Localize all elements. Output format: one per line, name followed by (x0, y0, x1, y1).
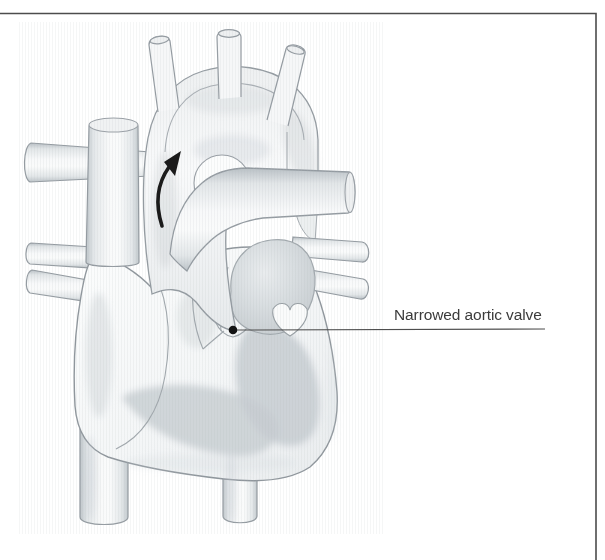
figure-page: Narrowed aortic valve (0, 0, 605, 560)
figure-label: Narrowed aortic valve (394, 306, 542, 325)
heart-anatomy-figure (0, 0, 605, 560)
valve-marker-dot (229, 326, 238, 335)
scan-texture (18, 22, 383, 534)
